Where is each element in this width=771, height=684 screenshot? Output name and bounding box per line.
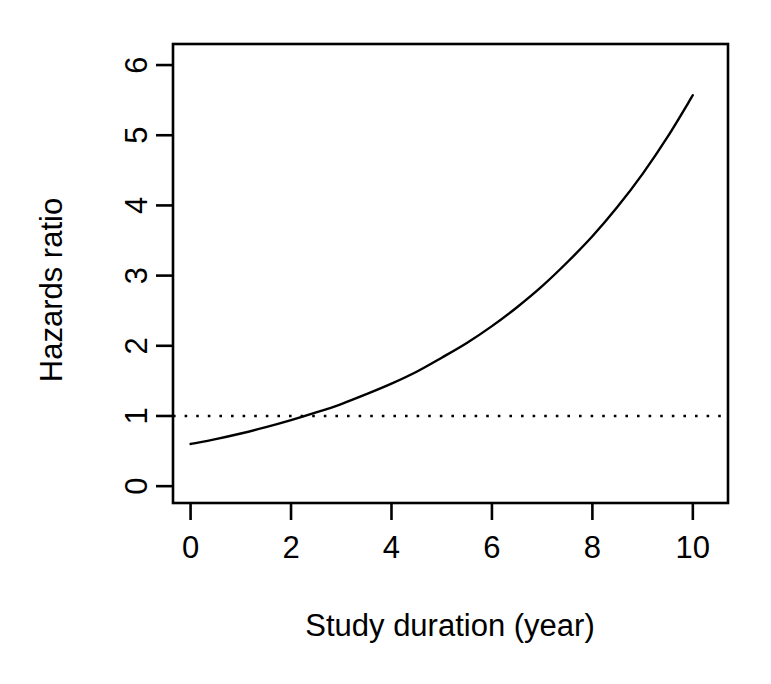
x-tick-label-6: 6 (483, 530, 500, 565)
x-axis-title: Study duration (year) (305, 608, 594, 643)
x-tick-label-0: 0 (182, 530, 199, 565)
y-tick-label-1: 1 (120, 407, 155, 424)
y-tick-label-6: 6 (120, 56, 155, 73)
y-tick-label-2: 2 (120, 337, 155, 354)
y-tick-label-5: 5 (120, 127, 155, 144)
y-axis-title: Hazards ratio (34, 198, 69, 382)
chart-figure: 0123456 0246810 Hazards ratio Study dura… (0, 0, 771, 684)
y-tick-label-4: 4 (120, 197, 155, 214)
y-tick-label-3: 3 (120, 267, 155, 284)
x-tick-label-10: 10 (676, 530, 710, 565)
y-tick-label-0: 0 (120, 478, 155, 495)
chart-background (0, 0, 771, 684)
x-tick-label-2: 2 (282, 530, 299, 565)
hazards-ratio-line-chart: 0123456 0246810 Hazards ratio Study dura… (0, 0, 771, 684)
x-tick-label-8: 8 (584, 530, 601, 565)
x-tick-label-4: 4 (383, 530, 400, 565)
